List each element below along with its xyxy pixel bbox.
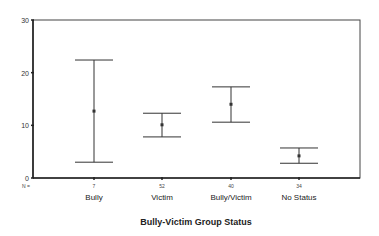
y-tick-label: 10	[21, 122, 29, 129]
y-tick-label: 30	[21, 17, 29, 24]
n-value: 40	[228, 183, 234, 189]
n-value: 34	[296, 183, 302, 189]
n-label: N =	[22, 183, 30, 189]
x-tick-label: Bully/Victim	[210, 193, 252, 202]
n-value: 7	[93, 183, 96, 189]
n-value: 52	[159, 183, 165, 189]
error-bar-chart: 0102030N =7Bully52Victim40Bully/Victim34…	[0, 0, 379, 236]
x-tick-label: Victim	[151, 193, 173, 202]
y-tick-label: 20	[21, 70, 29, 77]
mean-marker	[298, 154, 301, 157]
mean-marker	[93, 110, 96, 113]
mean-marker	[161, 123, 164, 126]
x-tick-label: No Status	[281, 193, 316, 202]
plot-frame	[33, 20, 360, 178]
mean-marker	[230, 103, 233, 106]
y-tick-label: 0	[25, 175, 29, 182]
x-tick-label: Bully	[85, 193, 102, 202]
x-axis-title: Bully-Victim Group Status	[140, 217, 251, 227]
